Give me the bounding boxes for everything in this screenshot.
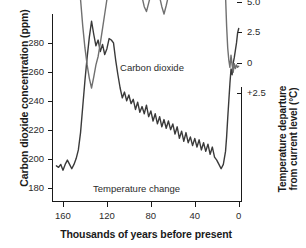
data-series-layer [56, 0, 238, 170]
series-line [56, 21, 238, 170]
plot-area [0, 0, 306, 248]
tick-marks [48, 0, 242, 207]
series-line [56, 0, 238, 88]
chart-figure: Carbon dioxide concentration (ppm) Tempe… [0, 0, 306, 248]
